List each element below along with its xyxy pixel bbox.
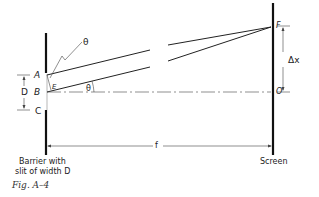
label-distance-f: f <box>155 141 158 151</box>
label-point-c: C <box>35 106 41 116</box>
label-slit-width: D <box>21 87 28 97</box>
label-point-a: A <box>34 70 40 80</box>
label-theta-angle: θ <box>86 84 91 94</box>
label-point-e: E <box>52 82 56 92</box>
label-delta-x: Δx <box>288 55 299 65</box>
label-barrier-line1: Barrier with <box>19 157 66 167</box>
label-point-f: F <box>276 21 281 31</box>
ray-b-right <box>168 27 271 61</box>
label-point-b: B <box>34 87 40 97</box>
label-screen: Screen <box>260 157 288 167</box>
figure-caption: Fig. A–4 <box>12 180 49 190</box>
label-barrier-line2: slit of width D <box>15 167 70 177</box>
ray-a-right <box>168 27 271 45</box>
theta-arc <box>92 81 94 92</box>
label-point-o: O <box>276 87 282 97</box>
label-theta-top: θ <box>83 37 89 47</box>
